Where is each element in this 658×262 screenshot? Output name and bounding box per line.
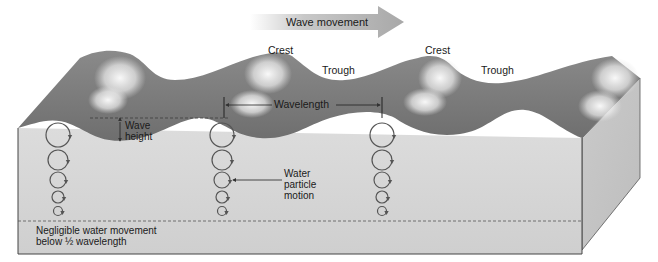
wave-diagram: Wave movement Crest Crest Trough Trough … — [0, 0, 658, 262]
particle-line1: Water — [284, 168, 316, 179]
crest-label-2: Crest — [425, 45, 450, 56]
wavelength-label: Wavelength — [274, 99, 329, 110]
trough-label-2: Trough — [481, 65, 514, 76]
negligible-prefix: below — [36, 236, 65, 247]
negligible-suffix: wavelength — [73, 236, 126, 247]
particle-line2: particle — [284, 179, 316, 190]
crest-label-1: Crest — [268, 45, 293, 56]
wave-height-line2: height — [125, 131, 152, 142]
wave-diagram-graphic — [0, 0, 658, 262]
wave-height-line1: Wave — [125, 120, 152, 131]
trough-label-1: Trough — [322, 65, 355, 76]
wave-height-label: Wave height — [125, 120, 152, 142]
negligible-line2: below ½ wavelength — [36, 236, 157, 247]
negligible-movement-label: Negligible water movement below ½ wavele… — [36, 225, 157, 247]
half-fraction: ½ — [65, 236, 73, 247]
wave-movement-label: Wave movement — [286, 17, 368, 28]
particle-line3: motion — [284, 190, 316, 201]
negligible-line1: Negligible water movement — [36, 225, 157, 236]
particle-motion-label: Water particle motion — [284, 168, 316, 201]
